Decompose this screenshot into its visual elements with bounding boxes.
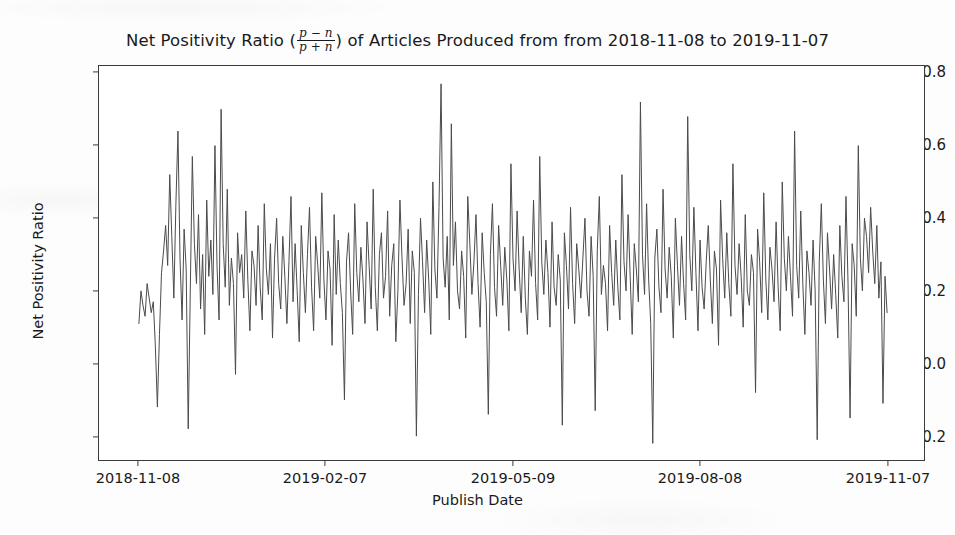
fraction-denominator: p + n	[297, 41, 335, 54]
xtick-label-3: 2019-08-08	[658, 470, 742, 486]
xtick-mark	[137, 461, 138, 466]
chart-figure: Net Positivity Ratio (p − np + n) of Art…	[0, 0, 955, 535]
xtick-label-0: 2018-11-08	[96, 470, 180, 486]
chart-title-prefix: Net Positivity Ratio (	[126, 31, 296, 50]
xtick-mark	[699, 461, 700, 466]
y-axis-label: Net Positivity Ratio	[30, 171, 46, 371]
xtick-label-4: 2019-11-07	[846, 470, 930, 486]
chart-title-fraction: p − np + n	[297, 27, 335, 53]
xtick-mark	[512, 461, 513, 466]
xtick-mark	[887, 461, 888, 466]
xtick-mark	[324, 461, 325, 466]
xtick-label-2: 2019-05-09	[471, 470, 555, 486]
chart-title: Net Positivity Ratio (p − np + n) of Art…	[0, 28, 955, 54]
series-polyline	[139, 84, 887, 444]
series-line-chart	[99, 66, 924, 460]
plot-area	[98, 65, 925, 461]
fraction-numerator: p − n	[297, 27, 335, 41]
chart-title-suffix: ) of Articles Produced from from 2018-11…	[336, 31, 829, 50]
xtick-label-1: 2019-02-07	[283, 470, 367, 486]
x-axis-label: Publish Date	[0, 492, 955, 508]
